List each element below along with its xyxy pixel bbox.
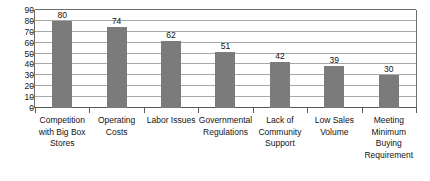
x-axis-category-label: Low Sales Volume	[307, 115, 361, 138]
x-axis-ticks	[34, 108, 417, 113]
bar-group: 30	[362, 10, 416, 108]
bar-group: 51	[198, 10, 252, 108]
bar-value-label: 74	[112, 16, 121, 26]
x-axis-labels: Competition with Big Box StoresOperating…	[35, 115, 416, 177]
bar-value-label: 51	[221, 41, 230, 51]
bar-value-label: 39	[330, 55, 339, 65]
bar	[215, 52, 235, 108]
bar-group: 42	[253, 10, 307, 108]
bar-value-label: 42	[275, 51, 284, 61]
x-tick-mark	[253, 108, 254, 113]
bar-value-label: 80	[57, 10, 66, 20]
x-tick-mark	[416, 108, 417, 113]
x-axis-category-label: Lack of Community Support	[253, 115, 307, 150]
bar	[161, 41, 181, 109]
x-axis-category-label: Labor Issues	[144, 115, 198, 127]
x-tick-mark	[89, 108, 90, 113]
bar-group: 74	[89, 10, 143, 108]
x-axis-category-label: Governmental Regulations	[198, 115, 252, 138]
bar	[270, 62, 290, 108]
x-tick-mark	[144, 108, 145, 113]
x-tick-mark	[35, 108, 36, 113]
x-tick-mark	[307, 108, 308, 113]
bar-chart: 0102030405060708090 80746251423930 Compe…	[0, 0, 430, 181]
bar-group: 39	[307, 10, 361, 108]
x-axis-category-label: Meeting Minimum Buying Requirement	[362, 115, 416, 161]
bar	[324, 66, 344, 108]
bar-value-label: 30	[384, 64, 393, 74]
bars-layer: 80746251423930	[35, 10, 416, 108]
x-tick-mark	[362, 108, 363, 113]
bar	[52, 21, 72, 108]
y-axis: 0102030405060708090	[0, 10, 34, 108]
bar-group: 80	[35, 10, 89, 108]
bar-value-label: 62	[166, 30, 175, 40]
bar-group: 62	[144, 10, 198, 108]
x-axis-category-label: Operating Costs	[89, 115, 143, 138]
x-axis-category-label: Competition with Big Box Stores	[35, 115, 89, 150]
bar	[107, 27, 127, 108]
x-tick-mark	[198, 108, 199, 113]
bar	[379, 75, 399, 108]
